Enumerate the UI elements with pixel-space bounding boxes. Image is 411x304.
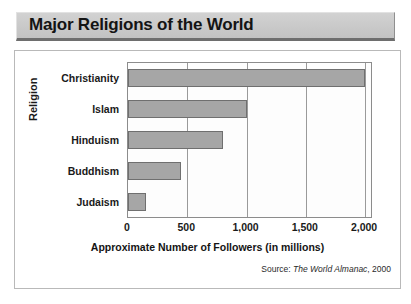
bar-hinduism xyxy=(128,131,223,149)
source-publication: The World Almanac xyxy=(293,264,367,274)
source-prefix: Source: xyxy=(261,264,290,274)
y-axis-tick-label: Hinduism xyxy=(44,124,123,155)
x-axis-tick-label: 0 xyxy=(124,221,130,233)
bar-series xyxy=(128,63,371,217)
y-axis-title: Religion xyxy=(27,99,39,121)
y-axis-tick-label: Islam xyxy=(44,93,123,124)
x-axis-title: Approximate Number of Followers (in mill… xyxy=(14,241,401,253)
bar-judaism xyxy=(128,193,146,211)
bar-buddhism xyxy=(128,162,181,180)
bar-islam xyxy=(128,100,247,118)
bar-row xyxy=(128,125,371,156)
x-axis-tick-label: 500 xyxy=(178,221,196,233)
title-banner: Major Religions of the World xyxy=(16,12,395,41)
x-axis-tick-labels: 05001,0001,5002,000 xyxy=(127,221,372,237)
plot-area xyxy=(127,62,372,218)
bar-row xyxy=(128,63,371,94)
x-axis-tick-label: 1,500 xyxy=(292,221,318,233)
x-axis-tick-label: 2,000 xyxy=(351,221,377,233)
page-title: Major Religions of the World xyxy=(29,15,254,35)
bar-row xyxy=(128,155,371,186)
bar-row xyxy=(128,186,371,217)
y-axis-tick-label: Christianity xyxy=(44,62,123,93)
source-year: , 2000 xyxy=(367,264,391,274)
y-axis-tick-label: Judaism xyxy=(44,187,123,218)
x-axis-tick-label: 1,000 xyxy=(232,221,258,233)
source-note: Source: The World Almanac, 2000 xyxy=(261,264,391,274)
bar-christianity xyxy=(128,69,365,87)
y-axis-tick-labels: Christianity Islam Hinduism Buddhism Jud… xyxy=(44,62,123,218)
y-axis-tick-label: Buddhism xyxy=(44,156,123,187)
bar-row xyxy=(128,94,371,125)
